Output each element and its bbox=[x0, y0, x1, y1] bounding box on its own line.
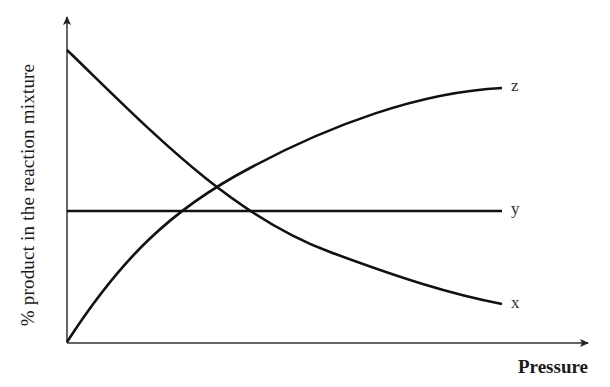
series-x-label: x bbox=[511, 293, 520, 313]
series-x-line bbox=[67, 50, 502, 304]
series-z-label: z bbox=[511, 76, 519, 96]
x-axis-label: Pressure bbox=[518, 356, 588, 378]
series-z-line bbox=[67, 88, 502, 342]
chart-canvas bbox=[0, 0, 610, 387]
y-axis-label: % product in the reaction mixture bbox=[17, 64, 39, 327]
series-y-label: y bbox=[511, 199, 520, 219]
